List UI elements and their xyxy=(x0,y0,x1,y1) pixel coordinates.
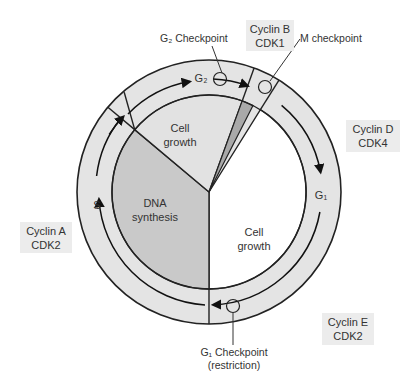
cell-cycle-diagram: G₂ S G₁ Cellgrowth DNAsynthesis Cellgrow… xyxy=(0,0,415,388)
m-checkpoint-label: M checkpoint xyxy=(300,32,362,45)
cyclin-a-label: Cyclin A xyxy=(26,224,66,238)
g1-checkpoint-line1: G₁ Checkpoint xyxy=(198,346,270,359)
cyclin-e-box: Cyclin E CDK2 xyxy=(322,313,374,345)
cyclin-a-box: Cyclin A CDK2 xyxy=(20,222,72,253)
cyclin-b-box: Cyclin B CDK1 xyxy=(246,20,294,51)
g2-checkpoint-label: G₂ Checkpoint xyxy=(160,32,228,45)
cyclin-b-label: Cyclin B xyxy=(250,22,290,36)
g1-checkpoint-label: G₁ Checkpoint (restriction) xyxy=(198,346,270,372)
cdk2-e-label: CDK2 xyxy=(333,329,362,343)
cyclin-e-label: Cyclin E xyxy=(328,315,368,329)
g1-checkpoint-line2: (restriction) xyxy=(198,359,270,372)
phase-label-g2: G₂ xyxy=(195,72,208,84)
cdk4-label: CDK4 xyxy=(358,136,387,150)
phase-label-g1: G₁ xyxy=(315,189,328,201)
cdk2-a-label: CDK2 xyxy=(31,238,60,252)
cyclin-d-box: Cyclin D CDK4 xyxy=(346,120,400,152)
cyclin-d-label: Cyclin D xyxy=(353,122,394,136)
phase-label-s: S xyxy=(93,199,100,211)
cdk1-label: CDK1 xyxy=(255,36,284,50)
